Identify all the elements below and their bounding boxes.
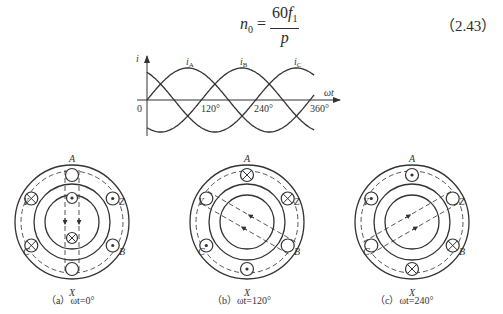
field-arrow-icon bbox=[242, 227, 247, 230]
origin-label: 0 bbox=[137, 103, 142, 114]
slot-label-c: C bbox=[23, 246, 30, 257]
field-arrow-icon bbox=[249, 215, 254, 218]
legend-ia: iA bbox=[186, 56, 194, 69]
dot-icon bbox=[111, 197, 114, 200]
dot-icon bbox=[205, 244, 208, 247]
flux-path-dashed bbox=[361, 171, 463, 273]
conductor-empty bbox=[281, 239, 294, 252]
stator-diagram-a: AZBXCY bbox=[15, 153, 129, 298]
slot-label-b: B bbox=[119, 246, 125, 257]
slot-label-c: C bbox=[363, 246, 370, 257]
x-axis-label: ωt bbox=[324, 87, 334, 98]
dot-icon bbox=[370, 197, 373, 200]
slot-label-a: A bbox=[68, 153, 76, 164]
stator-outer-ring bbox=[15, 165, 129, 279]
y-axis-label: i bbox=[136, 53, 139, 64]
tick-360: 360° bbox=[310, 103, 329, 114]
tick-240: 240° bbox=[254, 103, 273, 114]
slot-label-a: A bbox=[408, 153, 416, 164]
caption-c: （c）ωt=240° bbox=[375, 292, 433, 307]
field-arrow-icon bbox=[412, 227, 417, 230]
slot-label-b: B bbox=[294, 246, 300, 257]
slot-label-z: Z bbox=[459, 196, 465, 207]
dot-icon bbox=[245, 267, 248, 270]
dot-icon bbox=[111, 244, 114, 247]
figure-canvas: i ωt 0 120° 240° 360° iA iB iC AZBXCY AZ… bbox=[0, 0, 503, 314]
slot-label-c: C bbox=[198, 246, 205, 257]
stator-outer-ring bbox=[355, 165, 469, 279]
stator-diagram-b: AZBXCY bbox=[190, 153, 304, 298]
stator-outer-ring bbox=[190, 165, 304, 279]
flux-path-dashed bbox=[196, 171, 298, 273]
current-waveform-chart bbox=[137, 56, 340, 136]
field-arrow-icon bbox=[405, 215, 410, 218]
flux-path-dashed bbox=[21, 171, 123, 273]
conductor-empty bbox=[446, 192, 459, 205]
legend-ib: iB bbox=[240, 56, 248, 69]
dot-icon bbox=[70, 196, 73, 199]
legend-ic: iC bbox=[294, 56, 302, 69]
slot-label-z: Z bbox=[294, 196, 300, 207]
caption-b: （b）ωt=120° bbox=[212, 292, 271, 307]
stator-diagram-c: AZBXCY bbox=[355, 153, 469, 298]
tick-120: 120° bbox=[201, 103, 220, 114]
conductor-empty bbox=[66, 169, 79, 182]
slot-label-a: A bbox=[243, 153, 251, 164]
slot-label-z: Z bbox=[119, 196, 125, 207]
slot-label-b: B bbox=[459, 246, 465, 257]
dot-icon bbox=[410, 173, 413, 176]
conductor-empty bbox=[66, 263, 79, 276]
caption-a: （a）ωt=0° bbox=[46, 292, 94, 307]
